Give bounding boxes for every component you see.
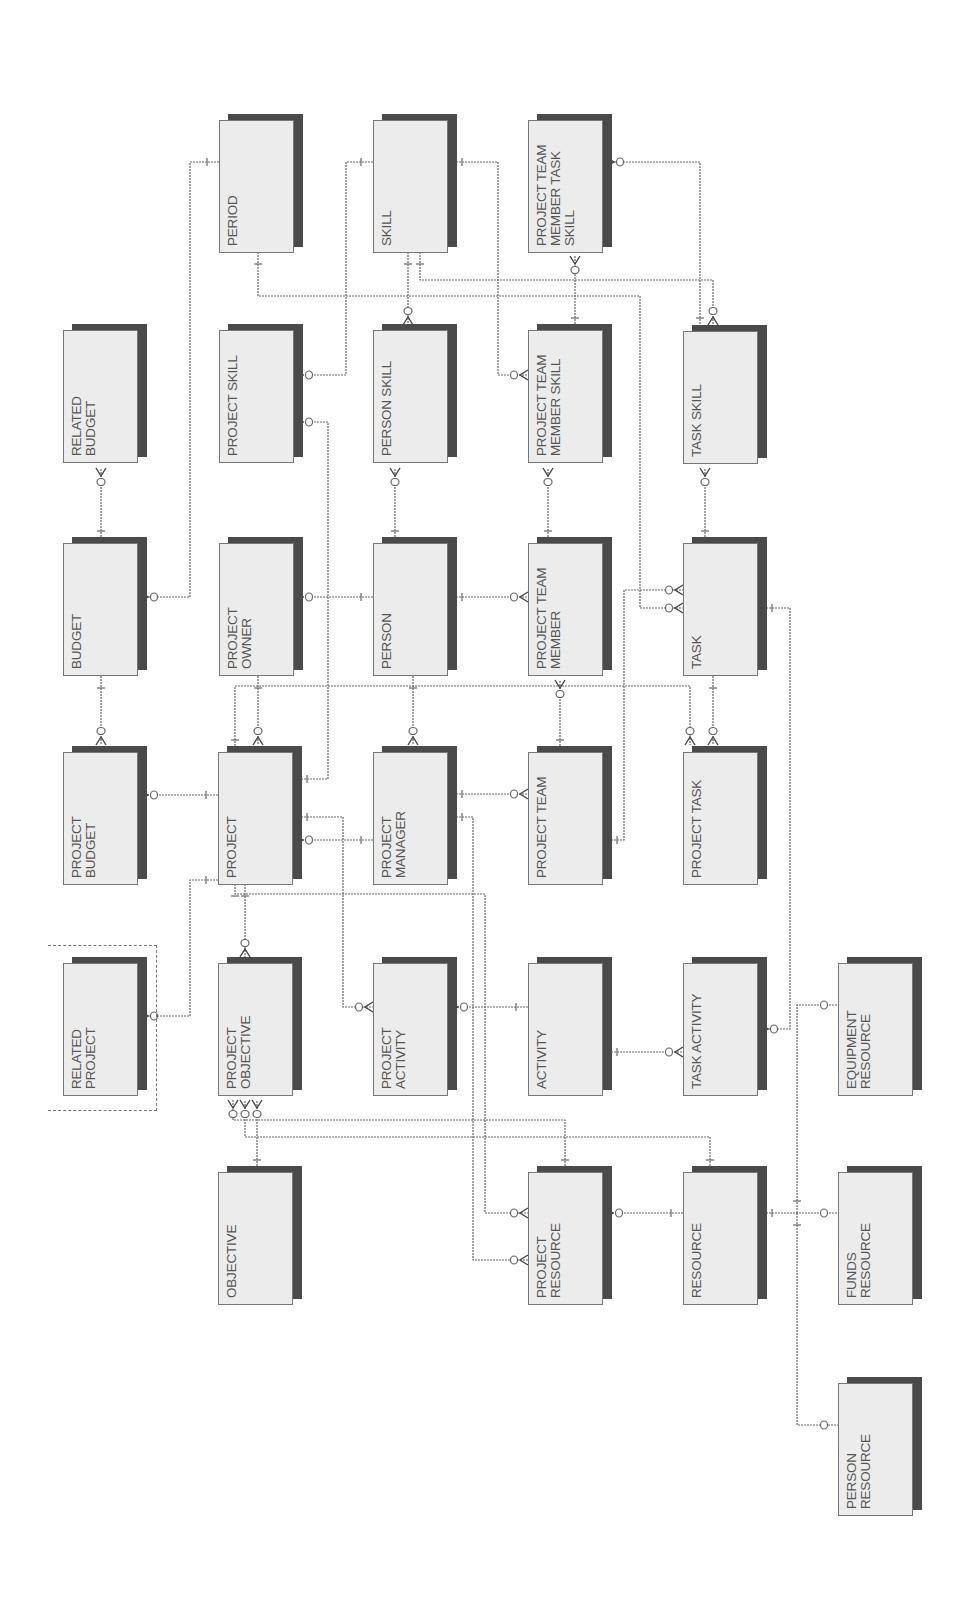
relationship-skill-to-task-skill xyxy=(420,252,713,325)
entity-project-team[interactable]: PROJECT TEAM xyxy=(528,752,603,885)
relationship-resource-to-person-resource xyxy=(797,1213,838,1425)
entity-label: PROJECT TEAM MEMBER TASK SKILL xyxy=(535,121,577,246)
entity-box: PROJECT TEAM MEMBER TASK SKILL xyxy=(528,120,603,253)
relationship-resource-to-project-objective xyxy=(245,1100,710,1172)
entity-box: PERSON xyxy=(373,543,448,676)
entity-project-resource[interactable]: PROJECT RESOURCE xyxy=(528,1172,603,1305)
entity-label: OBJECTIVE xyxy=(225,1173,239,1298)
relationship-task-skill-to-ptm-task-skill xyxy=(606,162,700,330)
optional-cardinality-circle xyxy=(709,308,717,315)
entity-project-skill[interactable]: PROJECT SKILL xyxy=(219,330,294,463)
entity-person-resource[interactable]: PERSON RESOURCE xyxy=(838,1383,913,1516)
entity-label: EQUIPMENT RESOURCE xyxy=(845,964,873,1089)
entity-project-owner[interactable]: PROJECT OWNER xyxy=(219,543,294,676)
optional-cardinality-circle xyxy=(241,1111,249,1118)
relationship-period-to-task xyxy=(258,252,683,608)
entity-box: RESOURCE xyxy=(683,1172,758,1305)
entity-label: SKILL xyxy=(380,121,394,246)
entity-label: PROJECT xyxy=(225,753,239,878)
optional-cardinality-circle xyxy=(409,728,417,735)
entity-project-team-member[interactable]: PROJECT TEAM MEMBER xyxy=(528,543,603,676)
entity-resource[interactable]: RESOURCE xyxy=(683,1172,758,1305)
optional-cardinality-circle xyxy=(461,1003,468,1011)
entity-period[interactable]: PERIOD xyxy=(219,120,294,253)
optional-cardinality-circle xyxy=(306,836,313,844)
entity-project-objective[interactable]: PROJECT OBJECTIVE xyxy=(218,963,293,1096)
optional-cardinality-circle xyxy=(511,371,518,379)
entity-project-activity[interactable]: PROJECT ACTIVITY xyxy=(373,963,448,1096)
entity-label: PROJECT ACTIVITY xyxy=(380,964,408,1089)
optional-cardinality-circle xyxy=(571,267,579,274)
entity-box: OBJECTIVE xyxy=(218,1172,293,1305)
optional-cardinality-circle xyxy=(97,479,105,486)
optional-cardinality-circle xyxy=(391,479,399,486)
optional-cardinality-circle xyxy=(151,593,158,601)
relationship-period-to-budget xyxy=(140,162,219,597)
entity-label: PROJECT TEAM xyxy=(535,753,549,878)
entity-label: PROJECT RESOURCE xyxy=(535,1173,563,1298)
optional-cardinality-circle xyxy=(404,308,412,315)
entity-label: BUDGET xyxy=(70,544,84,669)
relationship-project-to-project-task xyxy=(235,686,690,752)
entity-related-budget[interactable]: RELATED BUDGET xyxy=(63,330,138,463)
entity-box: PROJECT BUDGET xyxy=(63,752,138,885)
entity-person-skill[interactable]: PERSON SKILL xyxy=(373,330,448,463)
entity-equipment-resource[interactable]: EQUIPMENT RESOURCE xyxy=(838,963,913,1096)
entity-box: RELATED PROJECT xyxy=(63,963,138,1096)
entity-box: TASK ACTIVITY xyxy=(683,963,758,1096)
entity-related-project[interactable]: RELATED PROJECT xyxy=(63,963,138,1096)
relationship-skill-to-project-skill xyxy=(295,162,373,375)
entity-box: PERSON RESOURCE xyxy=(838,1383,913,1516)
entity-project-manager[interactable]: PROJECT MANAGER xyxy=(373,752,448,885)
relationship-project-manager-to-project-resource xyxy=(450,817,528,1260)
optional-cardinality-circle xyxy=(666,604,673,612)
entity-project[interactable]: PROJECT xyxy=(218,752,293,885)
entity-label: PROJECT BUDGET xyxy=(70,753,98,878)
entity-box: PROJECT xyxy=(218,752,293,885)
entity-project-budget[interactable]: PROJECT BUDGET xyxy=(63,752,138,885)
entity-box: PROJECT RESOURCE xyxy=(528,1172,603,1305)
optional-cardinality-circle xyxy=(151,791,158,799)
entity-budget[interactable]: BUDGET xyxy=(63,543,138,676)
entity-label: PERIOD xyxy=(226,121,240,246)
entity-box: PROJECT ACTIVITY xyxy=(373,963,448,1096)
entity-label: PERSON xyxy=(380,544,394,669)
optional-cardinality-circle xyxy=(616,1209,623,1217)
entity-activity[interactable]: ACTIVITY xyxy=(528,963,603,1096)
entity-box: PROJECT TEAM xyxy=(528,752,603,885)
relationship-project-team-to-task xyxy=(605,590,683,840)
entity-label: RELATED PROJECT xyxy=(70,964,98,1089)
optional-cardinality-circle xyxy=(686,728,694,735)
entity-ptm-task-skill[interactable]: PROJECT TEAM MEMBER TASK SKILL xyxy=(528,120,603,253)
entity-person[interactable]: PERSON xyxy=(373,543,448,676)
entity-label: PERSON SKILL xyxy=(380,331,394,456)
entity-label: TASK SKILL xyxy=(690,332,704,457)
entity-box: PROJECT OWNER xyxy=(219,543,294,676)
optional-cardinality-circle xyxy=(544,479,552,486)
entity-label: TASK ACTIVITY xyxy=(690,964,704,1089)
entity-funds-resource[interactable]: FUNDS RESOURCE xyxy=(838,1172,913,1305)
entity-box: TASK xyxy=(683,543,758,676)
optional-cardinality-circle xyxy=(511,593,518,601)
entity-box: PROJECT OBJECTIVE xyxy=(218,963,293,1096)
entity-ptm-skill[interactable]: PROJECT TEAM MEMBER SKILL xyxy=(528,330,603,463)
relationship-skill-to-ptm-skill xyxy=(450,162,528,375)
entity-objective[interactable]: OBJECTIVE xyxy=(218,1172,293,1305)
entity-label: RELATED BUDGET xyxy=(70,331,98,456)
entity-label: PROJECT TEAM MEMBER xyxy=(535,544,563,669)
entity-box: SKILL xyxy=(373,120,448,253)
entity-project-task[interactable]: PROJECT TASK xyxy=(683,752,758,885)
optional-cardinality-circle xyxy=(821,1421,828,1429)
entity-task-activity[interactable]: TASK ACTIVITY xyxy=(683,963,758,1096)
entity-box: ACTIVITY xyxy=(528,963,603,1096)
optional-cardinality-circle xyxy=(253,1111,261,1118)
entity-skill[interactable]: SKILL xyxy=(373,120,448,253)
relationship-project-resource-to-project-objective xyxy=(233,1100,565,1172)
optional-cardinality-circle xyxy=(617,158,624,166)
optional-cardinality-circle xyxy=(229,1111,237,1118)
entity-box: PROJECT TEAM MEMBER SKILL xyxy=(528,330,603,463)
entity-task-skill[interactable]: TASK SKILL xyxy=(683,331,758,464)
er-diagram-canvas: PERIODSKILLPROJECT TEAM MEMBER TASK SKIL… xyxy=(0,0,975,1604)
entity-task[interactable]: TASK xyxy=(683,543,758,676)
entity-label: FUNDS RESOURCE xyxy=(845,1173,873,1298)
